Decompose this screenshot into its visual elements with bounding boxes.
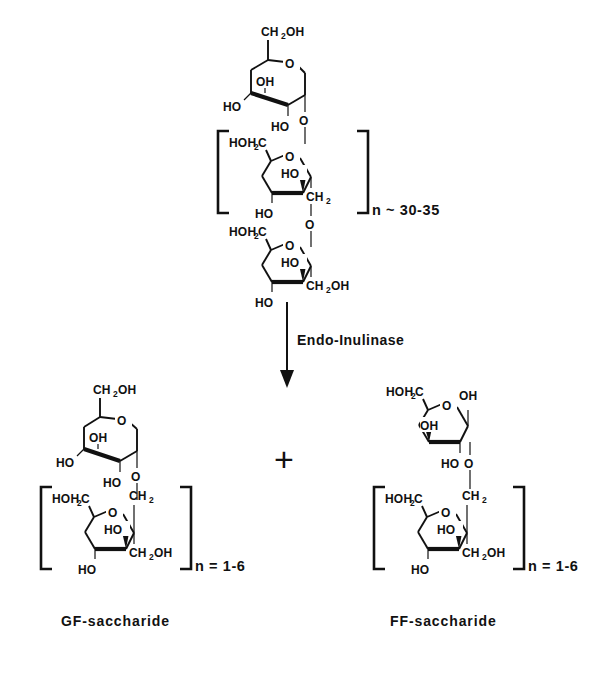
gf-glucose-glycosidic-oxygen-label: O xyxy=(131,470,141,484)
glucose-ho-left-label: HO xyxy=(223,100,241,114)
ff-fructose-unit: HOH 2 C O HO HO CH 2 xyxy=(385,489,505,577)
fructose2-c1-label: HOH xyxy=(229,225,256,239)
gf-fructose-ring-oxygen-label: O xyxy=(108,506,118,520)
gf-glucose-ring-oxygen-label: O xyxy=(117,414,127,428)
reaction-scheme-figure: CH 2 OH xyxy=(0,0,604,673)
glucose-oh-label: OH xyxy=(256,75,274,89)
glucose-ho-bottom-label: HO xyxy=(271,120,289,134)
fructose2-ch2oh-tail-label: OH xyxy=(331,279,349,293)
ff-terminal-ring-oxygen-label: O xyxy=(442,399,452,413)
ff-terminal-ho-bottom-label: HO xyxy=(441,457,459,471)
glucose-c6-tail-label: OH xyxy=(286,25,304,39)
gf-glucose-c6-tail-label: OH xyxy=(118,383,136,397)
fructose2-c1-tail-label: C xyxy=(258,225,267,239)
substrate-repeat-label: n ~ 30-35 xyxy=(372,202,440,218)
gf-glucose-ho-left-label: HO xyxy=(56,456,74,470)
ff-fructose-ch2oh-label: CH xyxy=(462,546,480,560)
ff-terminal-glycosidic-oxygen-label: O xyxy=(464,457,474,471)
ff-terminal-c1-tail-label: C xyxy=(415,385,424,399)
gf-fructose-c1-label: HOH xyxy=(52,492,79,506)
ff-fructose-ch2-subscript: 2 xyxy=(482,495,487,505)
ff-fructose-ho-bottom-label: HO xyxy=(411,563,429,577)
gf-fructose-ch2oh-label: CH xyxy=(129,546,147,560)
ff-fructose-ch2oh-tail-label: OH xyxy=(487,546,505,560)
ff-repeat-label: n = 1-6 xyxy=(528,558,579,574)
fructose2-ho-bottom-label: HO xyxy=(255,296,273,310)
fructose1-ch2-label: CH xyxy=(306,190,324,204)
ff-fructose-ring-oxygen-label: O xyxy=(441,506,451,520)
gf-fructose-ch2-subscript: 2 xyxy=(149,495,154,505)
gf-fructose-unit: HOH 2 C O HO HO CH 2 xyxy=(52,489,172,577)
fructose1-ring-oxygen-label: O xyxy=(285,150,295,164)
gf-repeat-label: n = 1-6 xyxy=(195,558,246,574)
product-gf-saccharide-structure: CH 2 OH O OH HO HO xyxy=(41,383,246,629)
gf-saccharide-caption: GF-saccharide xyxy=(61,613,170,629)
gf-fructose-ch2-label: CH xyxy=(129,489,147,503)
plus-sign: + xyxy=(274,440,294,478)
gf-fructose-ch2oh-tail-label: OH xyxy=(154,546,172,560)
ff-saccharide-caption: FF-saccharide xyxy=(390,613,497,629)
fructose1-ho-bottom-label: HO xyxy=(255,207,273,221)
gf-glucose-c6-label: CH xyxy=(93,383,111,397)
glucose-c6-label: CH xyxy=(261,25,279,39)
fructose1-c1-label: HOH xyxy=(229,136,256,150)
glucose-glycosidic-oxygen-label: O xyxy=(299,114,309,128)
gf-fructose-c1-tail-label: C xyxy=(81,492,90,506)
fructose2-ho-inner-label: HO xyxy=(281,256,299,270)
gf-fructose-ho-bottom-label: HO xyxy=(78,563,96,577)
substrate-inulin-structure: CH 2 OH xyxy=(218,25,440,310)
ff-fructose-ch2-label: CH xyxy=(462,489,480,503)
product-ff-saccharide-structure: HOH 2 C O OH OH xyxy=(374,385,579,629)
reaction-arrow-group xyxy=(280,302,294,388)
fructose2-ring-oxygen-label: O xyxy=(285,239,295,253)
gf-glucose-unit: CH 2 OH O OH HO HO xyxy=(56,383,146,500)
ff-terminal-fructose-unit: HOH 2 C O OH OH xyxy=(386,385,479,489)
reaction-scheme-canvas: CH 2 OH xyxy=(0,0,604,673)
gf-fructose-ho-inner-label: HO xyxy=(104,523,122,537)
fructose1-c1-tail-label: C xyxy=(258,136,267,150)
ff-terminal-c1-label: HOH xyxy=(386,385,413,399)
fructose2-ch2oh-label: CH xyxy=(306,279,324,293)
reaction-arrow-head xyxy=(280,370,294,388)
substrate-glucose-unit: CH 2 OH xyxy=(223,25,314,144)
ff-terminal-oh-inner-label: OH xyxy=(420,419,438,433)
substrate-fructose-unit-2: HOH 2 C O HO HO CH 2 OH xyxy=(229,225,349,310)
glucose-ring-oxygen-label: O xyxy=(285,57,295,71)
ff-fructose-c1-tail-label: C xyxy=(414,492,423,506)
ff-fructose-c1-label: HOH xyxy=(385,492,412,506)
fructose1-glycosidic-oxygen-label: O xyxy=(305,218,315,232)
ff-terminal-oh-top-label: OH xyxy=(459,389,477,403)
ff-fructose-ho-inner-label: HO xyxy=(437,523,455,537)
gf-glucose-oh-label: OH xyxy=(89,431,107,445)
fructose1-ho-inner-label: HO xyxy=(281,167,299,181)
fructose1-ch2-subscript: 2 xyxy=(326,196,331,206)
gf-glucose-ho-bottom-label: HO xyxy=(103,476,121,490)
enzyme-label: Endo-Inulinase xyxy=(297,332,404,348)
